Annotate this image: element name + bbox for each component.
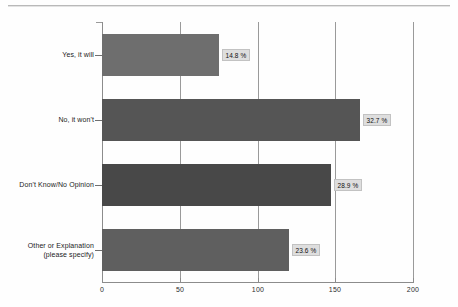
x-tick-label: 150: [329, 286, 341, 293]
bar-value-label: 32.7 %: [363, 114, 391, 126]
x-tick-label: 100: [252, 286, 264, 293]
gridline-150: [335, 22, 336, 282]
x-tick-label: 0: [100, 286, 104, 293]
horizontal-bar-chart: 050100150200 14.8 %32.7 %28.9 %23.6 % Ye…: [0, 14, 458, 294]
category-label: No, it won't: [0, 116, 94, 125]
x-tick-mark-50: [180, 278, 181, 283]
x-tick-label: 200: [407, 286, 419, 293]
gridline-200: [413, 22, 414, 282]
category-tick-mark: [95, 185, 102, 186]
category-label: Yes, it will: [0, 51, 94, 60]
category-tick-mark: [95, 55, 102, 56]
x-tick-mark-0: [102, 278, 103, 283]
bar: [102, 99, 360, 141]
chart-page: 050100150200 14.8 %32.7 %28.9 %23.6 % Ye…: [0, 0, 458, 307]
category-label: Other or Explanation (please specify): [0, 242, 94, 259]
category-label: Don't Know/No Opinion: [0, 181, 94, 190]
bar-value-label: 14.8 %: [222, 49, 250, 61]
bar: [102, 34, 219, 76]
x-tick-mark-200: [413, 278, 414, 283]
header-divider-shadow: [8, 6, 450, 7]
bar: [102, 229, 289, 271]
bar-value-label: 23.6 %: [292, 244, 320, 256]
bar: [102, 164, 331, 206]
x-tick-mark-100: [258, 278, 259, 283]
x-tick-label: 50: [176, 286, 184, 293]
category-tick-mark: [95, 120, 102, 121]
bar-value-label: 28.9 %: [334, 179, 362, 191]
x-tick-mark-150: [335, 278, 336, 283]
category-tick-mark: [95, 250, 102, 251]
